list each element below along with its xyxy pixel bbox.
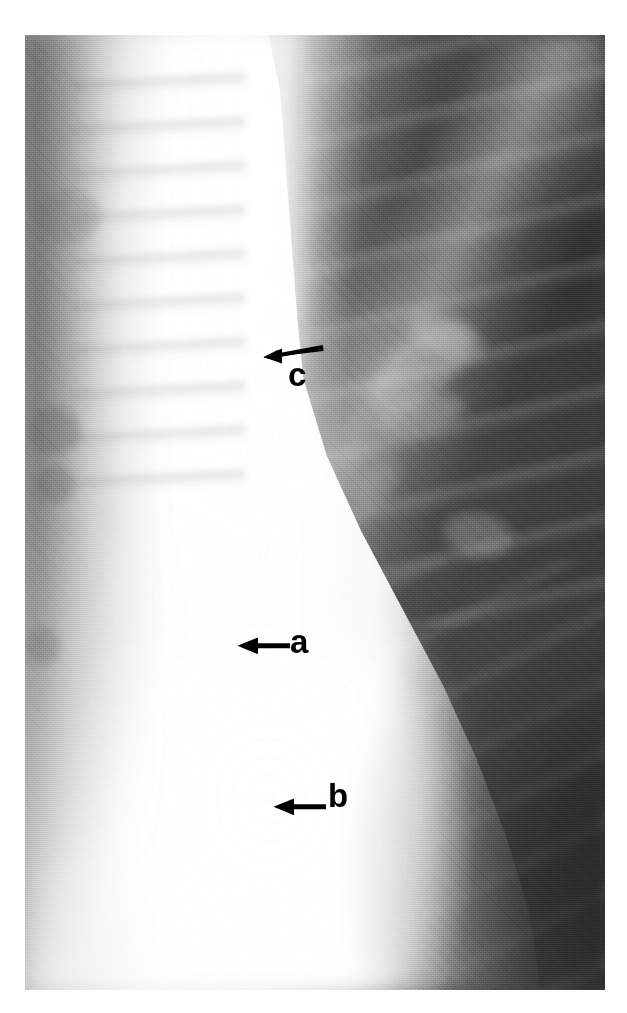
nodular-density [37, 188, 101, 245]
chest-radiograph-image [25, 35, 605, 990]
annotation-label-b: b [328, 779, 348, 812]
nodular-density [25, 627, 60, 665]
left-arrow-icon [272, 795, 328, 821]
figure-root: c a b [0, 0, 627, 1013]
nodular-density [28, 407, 80, 455]
annotation-label-a: a [290, 625, 308, 658]
annotation-arrow-a: a [236, 634, 292, 660]
annotation-label-c: c [288, 358, 306, 391]
annotation-arrow-c: c [262, 342, 328, 372]
left-arrow-icon [236, 634, 292, 660]
left-margin-densities [25, 35, 605, 990]
annotation-arrow-b: b [272, 795, 328, 821]
nodular-density [34, 465, 75, 503]
